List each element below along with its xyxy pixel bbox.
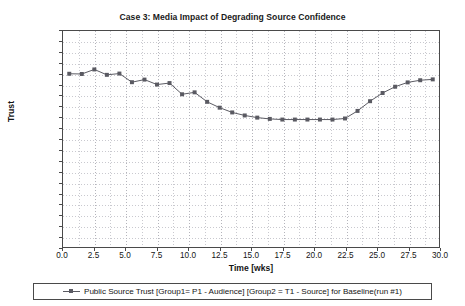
data-point-marker bbox=[105, 73, 109, 77]
x-axis-tick bbox=[346, 248, 347, 251]
data-point-marker bbox=[168, 81, 172, 85]
x-axis-tick bbox=[94, 248, 95, 251]
data-point-marker bbox=[431, 77, 435, 81]
data-point-marker bbox=[142, 78, 146, 82]
x-axis-tick bbox=[440, 248, 441, 251]
legend-item-label: Public Source Trust [Group1= P1 - Audien… bbox=[84, 287, 402, 296]
data-point-marker bbox=[418, 78, 422, 82]
data-point-marker bbox=[356, 109, 360, 113]
data-point-marker bbox=[293, 118, 297, 122]
series-polyline bbox=[69, 69, 432, 119]
x-axis-tick bbox=[409, 248, 410, 251]
data-point-marker bbox=[368, 99, 372, 103]
data-point-marker bbox=[318, 118, 322, 122]
data-point-marker bbox=[180, 92, 184, 96]
x-axis-tick bbox=[220, 248, 221, 251]
x-axis-label: Time [wks] bbox=[62, 263, 440, 273]
data-point-marker bbox=[230, 110, 234, 114]
x-axis-tick bbox=[283, 248, 284, 251]
chart-figure: Case 3: Media Impact of Degrading Source… bbox=[0, 0, 465, 306]
y-axis-label: Trust bbox=[6, 101, 16, 122]
series-line bbox=[63, 31, 439, 247]
plot-area bbox=[62, 30, 440, 248]
legend-item: Public Source Trust [Group1= P1 - Audien… bbox=[63, 287, 402, 296]
legend: Public Source Trust [Group1= P1 - Audien… bbox=[33, 283, 432, 300]
x-axis-tick bbox=[125, 248, 126, 251]
chart-title: Case 3: Media Impact of Degrading Source… bbox=[0, 12, 465, 22]
data-point-marker bbox=[155, 83, 159, 87]
x-axis-tick bbox=[62, 248, 63, 251]
data-point-marker bbox=[280, 118, 284, 122]
data-point-marker bbox=[243, 113, 247, 117]
data-point-marker bbox=[305, 118, 309, 122]
data-point-marker bbox=[193, 90, 197, 94]
data-point-marker bbox=[343, 116, 347, 120]
x-tick-label: 30.0 bbox=[420, 251, 460, 260]
data-point-marker bbox=[205, 100, 209, 104]
data-point-marker bbox=[67, 72, 71, 76]
data-point-marker bbox=[330, 118, 334, 122]
x-axis-tick bbox=[188, 248, 189, 251]
data-point-marker bbox=[255, 116, 259, 120]
x-axis-tick bbox=[377, 248, 378, 251]
data-point-marker bbox=[117, 72, 121, 76]
data-point-marker bbox=[393, 85, 397, 89]
data-point-marker bbox=[92, 67, 96, 71]
x-axis-tick bbox=[251, 248, 252, 251]
data-point-marker bbox=[406, 80, 410, 84]
data-point-marker bbox=[218, 106, 222, 110]
x-axis-tick bbox=[314, 248, 315, 251]
data-point-marker bbox=[381, 91, 385, 95]
data-point-marker bbox=[130, 80, 134, 84]
data-point-marker bbox=[80, 72, 84, 76]
legend-marker-icon bbox=[63, 288, 80, 295]
data-point-marker bbox=[268, 117, 272, 121]
x-axis-tick bbox=[157, 248, 158, 251]
